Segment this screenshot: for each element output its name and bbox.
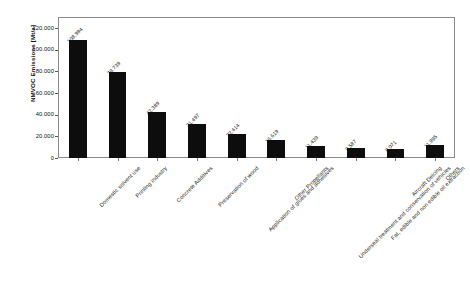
x-axis-category-label: Other Propellants: [294, 165, 330, 201]
x-axis-category-label: Domestic solvent use: [98, 165, 141, 208]
y-axis-tick-label: 20.000: [14, 133, 54, 139]
x-axis-tick-marks: [58, 158, 455, 164]
x-axis-tick-mark: [316, 158, 317, 161]
x-axis-tick-mark: [78, 158, 79, 161]
bar: [267, 140, 285, 158]
x-axis-category-label: Printing industry: [134, 165, 168, 199]
y-axis-tick-label: 100.000: [14, 46, 54, 52]
x-axis-tick-mark: [237, 158, 238, 161]
x-axis-tick-mark: [197, 158, 198, 161]
y-axis-tick-label: 0: [14, 155, 54, 161]
x-axis-tick-mark: [157, 158, 158, 161]
bar: [69, 40, 87, 158]
x-axis-category-label: Underseal treatment and conservation of …: [357, 165, 451, 259]
x-axis-tick-mark: [395, 158, 396, 161]
bars-layer: 108.99479.73942.38931.49722.41416.61911.…: [58, 17, 455, 158]
x-axis-tick-mark: [356, 158, 357, 161]
bar: [228, 134, 246, 158]
x-axis-category-label: Concrete Additives: [175, 165, 214, 204]
y-axis-tick-label: 40.000: [14, 111, 54, 117]
x-axis-tick-mark: [118, 158, 119, 161]
bar-chart: NMVOC Emissions [Mt/a] 120.000100.00080.…: [0, 0, 470, 284]
x-axis-category-label: Others: [444, 165, 461, 182]
y-axis-tick-label: 120.000: [14, 25, 54, 31]
bar: [109, 72, 127, 158]
x-axis-tick-mark: [435, 158, 436, 161]
x-axis-category-label: Aircraft Deicing: [411, 165, 443, 197]
bar: [188, 124, 206, 158]
x-axis-tick-mark: [276, 158, 277, 161]
x-axis-category-label: Preservation of wood: [217, 165, 260, 208]
y-axis-tick-label: 80.000: [14, 68, 54, 74]
y-axis-tick-label: 60.000: [14, 90, 54, 96]
y-axis-tick-labels: 120.000100.00080.00060.00040.00020.0000: [10, 0, 54, 284]
x-axis-category-label: Application of glues and adhesives: [267, 165, 335, 233]
bar: [148, 112, 166, 158]
x-axis-category-label: Fat, edible and non edible oil extractio…: [389, 165, 465, 241]
